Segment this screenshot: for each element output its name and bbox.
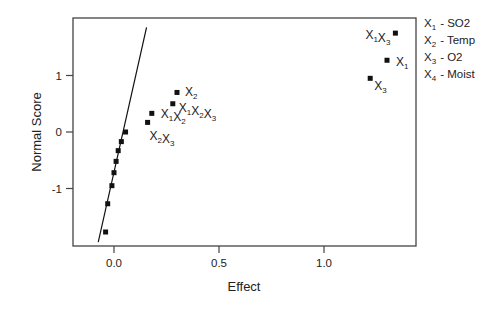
data-point [103,230,108,235]
data-point [170,101,175,106]
data-point [145,120,150,125]
y-axis: -101 [52,70,73,195]
y-axis-title: Normal Score [29,92,44,171]
x-tick-label: 0.5 [211,257,227,269]
legend: X1- SO2X2- TempX3- O2X4- Moist [424,17,475,83]
data-point [123,130,128,135]
y-tick-label: -1 [52,183,62,195]
legend-entry: X3- O2 [424,51,463,66]
point-label: X1X3 [365,28,390,47]
point-label: X2X3 [150,129,175,148]
legend-entry: X4- Moist [424,68,475,83]
data-point [175,90,180,95]
x-tick-label: 1.0 [316,257,332,269]
data-point [393,31,398,36]
normal-probability-plot: -101 0.00.51.0 X2X3X1X2X1X2X3X2X3X1X1X3 … [0,0,500,314]
y-tick-label: 1 [56,70,62,82]
data-point [385,58,390,63]
data-point [368,76,373,81]
data-point [112,170,117,175]
reference-line [98,27,146,242]
legend-entry: X2- Temp [424,34,475,49]
data-point [114,159,119,164]
x-axis-title: Effect [227,279,260,294]
data-point [105,201,110,206]
y-tick-label: 0 [56,126,62,138]
data-point [116,148,121,153]
data-point [119,139,124,144]
point-label: X2 [185,85,198,101]
data-points: X2X3X1X2X1X2X3X2X3X1X1X3 [103,28,409,234]
point-label: X3 [374,79,387,95]
x-tick-label: 0.0 [106,257,122,269]
point-label: X1 [396,55,409,71]
data-point [109,183,114,188]
x-axis: 0.00.51.0 [106,246,332,269]
legend-entry: X1- SO2 [424,17,470,32]
data-point [149,111,154,116]
